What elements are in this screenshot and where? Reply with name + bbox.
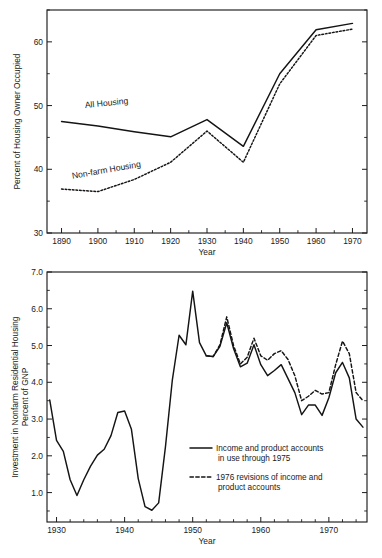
y-axis-title-line2: Percent of GNP (20, 367, 30, 426)
y-axis-title-text: Percent of Housing Owner Occupied (12, 53, 22, 189)
y-tick-label: 30 (34, 228, 44, 238)
x-tick-label: 1910 (125, 236, 144, 246)
x-tick-label: 1940 (234, 236, 253, 246)
x-tick-label: 1890 (52, 236, 71, 246)
figure-background (0, 0, 382, 558)
y-tick-label: 40 (34, 164, 44, 174)
y-tick-label: 3.0 (31, 414, 43, 424)
x-tick-label: 1950 (183, 525, 202, 535)
x-tick-label: 1970 (320, 525, 339, 535)
x-axis-title: Year (199, 536, 216, 546)
x-tick-label: 1900 (89, 236, 108, 246)
y-tick-label: 7.0 (31, 267, 43, 277)
x-tick-label: 1920 (161, 236, 180, 246)
x-tick-label: 1950 (270, 236, 289, 246)
x-tick-label: 1940 (115, 525, 134, 535)
y-tick-label: 60 (34, 37, 44, 47)
legend-label-1-line1: 1976 revisions of income and (216, 473, 323, 482)
x-tick-label: 1970 (343, 236, 362, 246)
two-panel-line-figure: 1890190019101920193019401950196019703040… (0, 0, 382, 558)
y-tick-label: 50 (34, 101, 44, 111)
x-tick-label: 1960 (307, 236, 326, 246)
y-axis-title: Percent of Housing Owner Occupied (12, 53, 22, 189)
legend-label-0-line2: in use through 1975 (218, 454, 291, 463)
legend-label-0-line1: Income and product accounts (216, 444, 323, 453)
y-tick-label: 5.0 (31, 341, 43, 351)
y-tick-label: 6.0 (31, 304, 43, 314)
figure-root: 1890190019101920193019401950196019703040… (0, 0, 382, 558)
x-tick-label: 1930 (198, 236, 217, 246)
y-tick-label: 4.0 (31, 377, 43, 387)
legend-label-1-line2: product accounts (218, 483, 280, 492)
x-tick-label: 1960 (251, 525, 270, 535)
x-tick-label: 1930 (47, 525, 66, 535)
y-tick-label: 2.0 (31, 451, 43, 461)
x-axis-title: Year (199, 247, 216, 257)
y-axis-title-line1: Investment in Nonfarm Residential Housin… (10, 316, 20, 477)
y-tick-label: 1.0 (31, 488, 43, 498)
